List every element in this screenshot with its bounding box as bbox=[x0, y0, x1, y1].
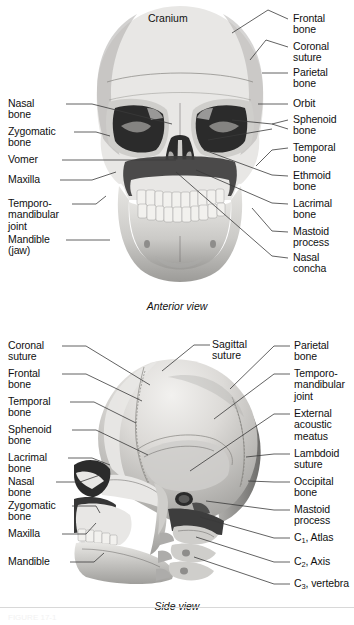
label-frontal-bone-side: Frontal bone bbox=[8, 368, 40, 391]
label-lacrimal-bone-anterior: Lacrimal bone bbox=[293, 198, 332, 221]
label-nasal-bone-anterior: Nasal bone bbox=[8, 98, 34, 121]
label-parietal-bone-side: Parietal bone bbox=[294, 340, 329, 363]
label-temporal-bone-side: Temporal bone bbox=[8, 396, 50, 419]
figure-note-cutoff: FIGURE 17-1 bbox=[8, 613, 348, 624]
figure-divider bbox=[0, 607, 354, 608]
label-frontal-bone-anterior: Frontal bone bbox=[293, 13, 325, 36]
label-c3-vertebra: C3, vertebra bbox=[294, 578, 349, 592]
label-parietal-bone-anterior: Parietal bone bbox=[293, 67, 328, 90]
label-mandible-side: Mandible bbox=[8, 556, 50, 567]
label-mandible-anterior: Mandible (jaw) bbox=[8, 234, 50, 257]
label-nasal-bone-side: Nasal bone bbox=[8, 476, 34, 499]
label-c2-axis: C2, Axis bbox=[294, 556, 330, 570]
label-mastoid-process-anterior: Mastoid process bbox=[293, 226, 329, 249]
label-coronal-suture-anterior: Coronal suture bbox=[293, 41, 329, 64]
label-sphenoid-bone-anterior: Sphenoid bone bbox=[293, 114, 337, 137]
anatomy-figure: Cranium Nasal bone Zygomatic bone Vomer … bbox=[0, 0, 354, 625]
label-occipital-bone: Occipital bone bbox=[294, 476, 333, 499]
label-maxilla-anterior: Maxilla bbox=[8, 174, 40, 185]
label-coronal-suture-side: Coronal suture bbox=[8, 340, 44, 363]
label-cranium: Cranium bbox=[148, 12, 188, 24]
label-temporal-bone-anterior: Temporal bone bbox=[293, 142, 335, 165]
label-tmj-side: Temporo- mandibular joint bbox=[294, 368, 345, 402]
label-lacrimal-bone-side: Lacrimal bone bbox=[8, 452, 47, 475]
label-ethmoid-bone-anterior: Ethmoid bone bbox=[293, 170, 331, 193]
label-mastoid-process-side: Mastoid process bbox=[294, 504, 330, 527]
label-external-acoustic-meatus: External acoustic meatus bbox=[294, 408, 332, 442]
c1-rest: , Atlas bbox=[306, 531, 334, 543]
label-orbit-anterior: Orbit bbox=[293, 98, 315, 109]
label-sphenoid-bone-side: Sphenoid bone bbox=[8, 424, 52, 447]
label-zygomatic-bone-anterior: Zygomatic bone bbox=[8, 126, 56, 149]
panel-anterior-view: Cranium Nasal bone Zygomatic bone Vomer … bbox=[0, 0, 354, 318]
label-vomer-anterior: Vomer bbox=[8, 154, 38, 165]
label-c1-atlas: C1, Atlas bbox=[294, 532, 333, 546]
label-tmj-anterior: Temporo- mandibular joint bbox=[8, 198, 59, 232]
label-zygomatic-bone-side: Zygomatic bone bbox=[8, 500, 56, 523]
label-lambdoid-suture: Lambdoid suture bbox=[294, 448, 339, 471]
label-nasal-concha-anterior: Nasal concha bbox=[293, 252, 326, 275]
c3-rest: , vertebra bbox=[306, 577, 349, 589]
caption-side-view: Side view bbox=[0, 600, 354, 612]
label-maxilla-side: Maxilla bbox=[8, 528, 40, 539]
caption-anterior-view: Anterior view bbox=[0, 300, 354, 312]
panel-side-view: Sagittal suture Coronal suture Frontal b… bbox=[0, 325, 354, 625]
label-sagittal-suture: Sagittal suture bbox=[212, 339, 247, 362]
c2-rest: , Axis bbox=[306, 555, 331, 567]
